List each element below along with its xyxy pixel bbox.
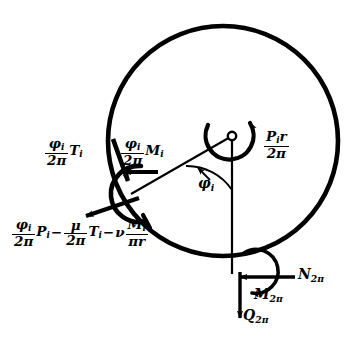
formula-fraction-2: μ 2π xyxy=(64,219,87,248)
center-hub xyxy=(228,132,236,140)
fraction-phi-over-2pi-2: φi 2π xyxy=(121,137,144,167)
symbol-Mi: Mi xyxy=(145,144,163,159)
contact-moment-arc xyxy=(111,166,146,222)
label-normal-force-N2pi: N2π xyxy=(298,267,324,283)
fraction-denominator: 2π xyxy=(64,233,87,248)
fraction-Pir-over-2pi: Pir 2π xyxy=(264,130,289,160)
fraction-denominator: 2π xyxy=(121,153,144,168)
label-central-moment-Pir-over-2pi: Pir 2π xyxy=(263,130,290,160)
formula-operator-2: − xyxy=(102,226,115,240)
symbol-Ti: Ti xyxy=(69,144,82,159)
fraction-numerator: μ xyxy=(64,219,87,233)
label-moment-M2pi: M2π xyxy=(254,287,283,303)
formula-symbol-nu: ν xyxy=(115,226,124,240)
label-angle-phi-i: φi xyxy=(198,176,214,192)
diagram-vector-layer xyxy=(0,0,358,340)
central-moment-arc xyxy=(206,123,254,160)
formula-operator-1: − xyxy=(50,226,63,240)
label-resultant-formula: φi 2π Pi− μ 2π Ti−ν Mi πr xyxy=(11,218,149,248)
formula-symbol-Pi: Pi xyxy=(36,225,50,240)
fraction-denominator: 2π xyxy=(45,153,68,168)
fraction-phi-over-2pi-1: φi 2π xyxy=(45,137,68,167)
label-shear-force-Q2pi: Q2π xyxy=(243,308,268,324)
fraction-numerator: φi xyxy=(121,137,144,153)
fraction-numerator: φi xyxy=(12,218,35,234)
fraction-numerator: Mi xyxy=(126,218,148,234)
fraction-denominator: 2π xyxy=(264,146,289,161)
label-phi-over-2pi-Ti: φi 2π Ti xyxy=(44,137,83,167)
formula-symbol-Ti: Ti xyxy=(88,225,101,240)
fraction-denominator: 2π xyxy=(12,234,35,249)
fraction-numerator: φi xyxy=(45,137,68,153)
formula-fraction-1: φi 2π xyxy=(12,218,35,248)
formula-fraction-3: Mi πr xyxy=(126,218,148,248)
label-phi-over-2pi-Mi: φi 2π Mi xyxy=(120,137,164,167)
free-body-diagram-figure: φi 2π Ti φi 2π Mi φi 2π Pi− μ 2π Ti−ν Mi… xyxy=(0,0,358,340)
fraction-denominator: πr xyxy=(126,234,148,249)
fraction-numerator: Pir xyxy=(264,130,289,146)
